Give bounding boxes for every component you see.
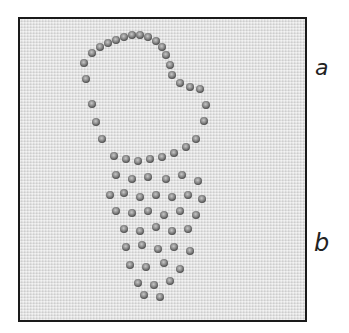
stitch-group-a: [80, 31, 210, 165]
photo-frame: [18, 17, 307, 322]
embroidery-stitches: [20, 19, 307, 322]
label-b: b: [314, 231, 329, 255]
stitch-group-b: [106, 171, 206, 301]
label-a: a: [315, 57, 328, 79]
